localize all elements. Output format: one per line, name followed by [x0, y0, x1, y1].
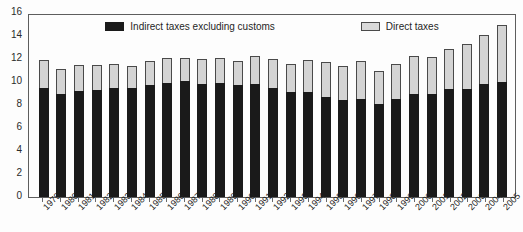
bar-stack[interactable] — [391, 64, 401, 197]
bar-segment-indirect-taxes[interactable] — [92, 90, 102, 197]
bar-segment-indirect-taxes[interactable] — [338, 100, 348, 197]
bar-column[interactable] — [335, 15, 353, 197]
bar-stack[interactable] — [233, 61, 243, 197]
bar-segment-indirect-taxes[interactable] — [109, 88, 119, 197]
bar-segment-indirect-taxes[interactable] — [286, 92, 296, 197]
bar-stack[interactable] — [444, 49, 454, 197]
bar-column[interactable] — [493, 15, 511, 197]
bar-stack[interactable] — [39, 60, 49, 197]
bar-segment-direct-taxes[interactable] — [444, 49, 454, 89]
bar-stack[interactable] — [338, 66, 348, 197]
bar-segment-direct-taxes[interactable] — [391, 64, 401, 100]
bar-segment-direct-taxes[interactable] — [215, 58, 225, 83]
bar-segment-indirect-taxes[interactable] — [497, 82, 507, 197]
bar-stack[interactable] — [321, 62, 331, 197]
bar-segment-indirect-taxes[interactable] — [321, 97, 331, 197]
bar-segment-indirect-taxes[interactable] — [427, 94, 437, 198]
bar-segment-direct-taxes[interactable] — [162, 58, 172, 83]
bar-segment-direct-taxes[interactable] — [145, 61, 155, 85]
bar-column[interactable] — [370, 15, 388, 197]
bar-segment-direct-taxes[interactable] — [250, 56, 260, 85]
bar-segment-direct-taxes[interactable] — [268, 59, 278, 88]
bar-stack[interactable] — [197, 59, 207, 197]
bar-column[interactable] — [299, 15, 317, 197]
bar-segment-direct-taxes[interactable] — [39, 60, 49, 88]
bar-segment-direct-taxes[interactable] — [56, 69, 66, 93]
bar-column[interactable] — [405, 15, 423, 197]
bar-segment-indirect-taxes[interactable] — [180, 81, 190, 197]
bar-segment-indirect-taxes[interactable] — [250, 84, 260, 197]
bar-segment-direct-taxes[interactable] — [286, 64, 296, 93]
bar-segment-indirect-taxes[interactable] — [233, 85, 243, 197]
bar-column[interactable] — [352, 15, 370, 197]
bar-column[interactable] — [458, 15, 476, 197]
bar-segment-direct-taxes[interactable] — [338, 66, 348, 101]
bar-segment-indirect-taxes[interactable] — [197, 84, 207, 197]
bar-stack[interactable] — [479, 35, 489, 197]
bar-column[interactable] — [211, 15, 229, 197]
bar-segment-direct-taxes[interactable] — [74, 65, 84, 91]
bar-segment-direct-taxes[interactable] — [197, 59, 207, 84]
bar-segment-indirect-taxes[interactable] — [462, 89, 472, 197]
bar-segment-direct-taxes[interactable] — [92, 65, 102, 90]
bar-stack[interactable] — [497, 25, 507, 198]
bar-column[interactable] — [141, 15, 159, 197]
bar-segment-direct-taxes[interactable] — [479, 35, 489, 84]
bar-column[interactable] — [476, 15, 494, 197]
bar-segment-indirect-taxes[interactable] — [444, 89, 454, 197]
bar-column[interactable] — [388, 15, 406, 197]
bar-column[interactable] — [106, 15, 124, 197]
bar-stack[interactable] — [74, 65, 84, 197]
bar-column[interactable] — [264, 15, 282, 197]
bar-stack[interactable] — [109, 64, 119, 197]
bar-stack[interactable] — [374, 71, 384, 197]
bar-segment-indirect-taxes[interactable] — [56, 94, 66, 198]
bar-column[interactable] — [35, 15, 53, 197]
bar-segment-indirect-taxes[interactable] — [479, 84, 489, 197]
bar-stack[interactable] — [145, 61, 155, 197]
bar-column[interactable] — [229, 15, 247, 197]
bar-stack[interactable] — [409, 56, 419, 197]
bar-column[interactable] — [158, 15, 176, 197]
bar-stack[interactable] — [56, 69, 66, 197]
bar-stack[interactable] — [92, 65, 102, 197]
bar-segment-direct-taxes[interactable] — [497, 25, 507, 83]
bar-segment-direct-taxes[interactable] — [180, 58, 190, 81]
bar-segment-indirect-taxes[interactable] — [409, 94, 419, 198]
bar-stack[interactable] — [268, 59, 278, 197]
bar-segment-indirect-taxes[interactable] — [74, 91, 84, 197]
legend-entry-indirect-taxes[interactable]: Indirect taxes excluding customs — [105, 21, 275, 32]
bar-segment-direct-taxes[interactable] — [109, 64, 119, 88]
legend-entry-direct-taxes[interactable]: Direct taxes — [361, 21, 439, 32]
bar-segment-indirect-taxes[interactable] — [391, 99, 401, 197]
bar-column[interactable] — [440, 15, 458, 197]
bar-stack[interactable] — [427, 57, 437, 197]
bar-segment-indirect-taxes[interactable] — [127, 88, 137, 197]
bar-segment-direct-taxes[interactable] — [303, 60, 313, 92]
bar-segment-indirect-taxes[interactable] — [145, 85, 155, 197]
bar-column[interactable] — [70, 15, 88, 197]
bar-column[interactable] — [423, 15, 441, 197]
bar-segment-direct-taxes[interactable] — [427, 57, 437, 94]
bar-segment-indirect-taxes[interactable] — [303, 92, 313, 197]
bar-segment-direct-taxes[interactable] — [374, 71, 384, 104]
bar-stack[interactable] — [303, 60, 313, 197]
bar-column[interactable] — [317, 15, 335, 197]
bar-segment-direct-taxes[interactable] — [233, 61, 243, 85]
bar-stack[interactable] — [180, 58, 190, 197]
bar-stack[interactable] — [127, 66, 137, 197]
bar-segment-direct-taxes[interactable] — [409, 56, 419, 94]
bar-stack[interactable] — [250, 56, 260, 197]
bar-stack[interactable] — [356, 61, 366, 197]
bar-column[interactable] — [176, 15, 194, 197]
bar-segment-direct-taxes[interactable] — [127, 66, 137, 88]
bar-segment-indirect-taxes[interactable] — [268, 88, 278, 197]
bar-column[interactable] — [88, 15, 106, 197]
bar-stack[interactable] — [286, 64, 296, 197]
bar-segment-indirect-taxes[interactable] — [215, 83, 225, 197]
bar-column[interactable] — [282, 15, 300, 197]
bar-segment-direct-taxes[interactable] — [462, 44, 472, 89]
bar-stack[interactable] — [215, 58, 225, 197]
bar-column[interactable] — [194, 15, 212, 197]
bar-segment-indirect-taxes[interactable] — [162, 83, 172, 197]
